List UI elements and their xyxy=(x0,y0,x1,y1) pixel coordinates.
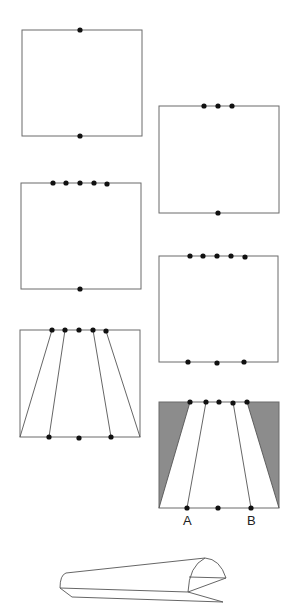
step-1-square xyxy=(22,27,142,138)
step-5-square xyxy=(20,327,140,440)
bottom-dot xyxy=(77,133,82,138)
step-4-square xyxy=(159,253,278,365)
step-3-square xyxy=(21,180,141,291)
label-b: B xyxy=(247,513,256,528)
step-2-square xyxy=(159,103,279,215)
label-a: A xyxy=(183,513,192,528)
final-folded-shape xyxy=(60,558,226,602)
top-dot xyxy=(77,27,82,32)
step-6-square xyxy=(159,399,279,510)
